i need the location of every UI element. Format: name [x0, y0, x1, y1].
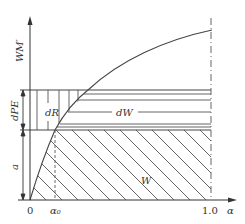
y-axis-arrow-icon — [28, 16, 33, 25]
y-axis-label: WM′ — [14, 38, 25, 62]
a-label: a — [9, 164, 20, 170]
storage-capacity-diagram: WM′ dPE a dR dW W 0 α₀ 1.0 α — [0, 0, 245, 224]
dpe-dimension — [21, 90, 25, 130]
x-tick-one-label: 1.0 — [202, 205, 218, 216]
dw-lines — [57, 94, 211, 127]
w-label: W — [141, 175, 152, 186]
dw-label: dW — [116, 107, 133, 118]
dr-label: dR — [45, 107, 59, 118]
origin-label: 0 — [27, 205, 33, 216]
x-axis-arrow-icon — [228, 198, 237, 203]
diagram-canvas: WM′ dPE a dR dW W 0 α₀ 1.0 α — [0, 0, 245, 224]
x-axis-label: α — [227, 205, 234, 216]
dpe-label: dPE — [9, 100, 20, 121]
a-dimension — [21, 130, 25, 200]
alpha0-label: α₀ — [50, 205, 61, 216]
